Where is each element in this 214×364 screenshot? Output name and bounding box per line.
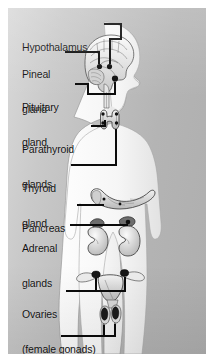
label-pituitary-line1: Pituitary [22,102,59,114]
leader-pituitary [75,82,115,94]
label-adrenal-line1: Adrenal [22,243,57,255]
label-parathyroid-line1: Parathyroid [22,144,74,156]
label-testes: Testes (male gonads) [22,331,87,354]
label-thyroid-line1: Thyroid [22,183,56,195]
leader-thyroid [71,129,116,165]
leader-parathyroid [91,120,105,126]
endocrine-system-figure: Hypothalamus Pineal gland Pituitary glan… [0,0,214,364]
leader-hypothalamus [104,24,121,64]
label-ovaries-line1: Ovaries [22,309,96,321]
diagram-plate: Hypothalamus Pineal gland Pituitary glan… [8,8,206,354]
